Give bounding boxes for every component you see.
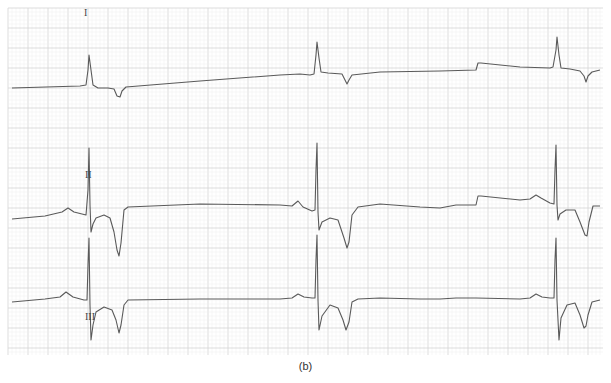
lead-label-I: I bbox=[84, 7, 87, 18]
ecg-strip: IIIIII bbox=[0, 0, 611, 383]
lead-label-III: III bbox=[85, 311, 95, 322]
ecg-grid bbox=[8, 8, 603, 355]
figure-caption: (b) bbox=[0, 360, 611, 372]
lead-label-II: II bbox=[85, 169, 92, 180]
